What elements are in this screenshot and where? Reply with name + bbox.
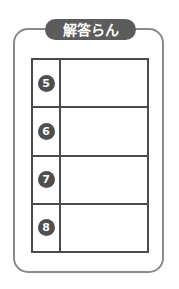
answer-input-cell[interactable] xyxy=(61,60,147,106)
question-number-badge: 5 xyxy=(38,75,55,92)
question-number-badge: 8 xyxy=(38,219,55,236)
table-row: 5 xyxy=(33,60,147,108)
table-row: 7 xyxy=(33,157,147,205)
answer-sheet: 解答らん 5 6 7 8 xyxy=(0,0,179,289)
question-number-cell: 7 xyxy=(33,157,61,203)
answer-section-title-label: 解答らん xyxy=(63,23,119,37)
answer-table: 5 6 7 8 xyxy=(31,58,149,253)
question-number-cell: 5 xyxy=(33,60,61,106)
answer-input-cell[interactable] xyxy=(61,205,147,251)
question-number-badge: 6 xyxy=(38,123,55,140)
question-number-badge: 7 xyxy=(38,171,55,188)
answer-input-cell[interactable] xyxy=(61,108,147,154)
question-number-cell: 6 xyxy=(33,108,61,154)
table-row: 8 xyxy=(33,205,147,251)
table-row: 6 xyxy=(33,108,147,156)
answer-input-cell[interactable] xyxy=(61,157,147,203)
answer-section-title-pill: 解答らん xyxy=(45,19,136,40)
question-number-cell: 8 xyxy=(33,205,61,251)
